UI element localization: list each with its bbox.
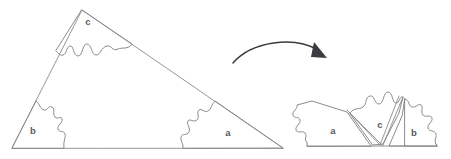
piece-a-shape[interactable] bbox=[181, 101, 283, 148]
right-piece-label-b: b bbox=[411, 127, 417, 138]
right-piece-label-c: c bbox=[377, 119, 382, 130]
source-triangle-group: c b a bbox=[12, 10, 283, 148]
transform-arrow-group bbox=[233, 42, 327, 63]
triangle-dissection-figure: c b a a bbox=[0, 0, 451, 159]
left-piece-label-b: b bbox=[30, 125, 36, 136]
diagram-canvas: c b a a bbox=[0, 0, 451, 159]
transform-arrow-head bbox=[311, 42, 327, 58]
rearranged-assembly-group: a c b bbox=[293, 92, 437, 146]
piece-c-shape[interactable] bbox=[56, 10, 132, 56]
right-piece-b-fringe[interactable] bbox=[405, 99, 437, 146]
left-piece-label-a: a bbox=[225, 127, 231, 138]
piece-b-shape[interactable] bbox=[12, 101, 65, 148]
right-piece-label-a: a bbox=[330, 125, 336, 136]
left-piece-label-c: c bbox=[85, 16, 90, 27]
transform-arrow-curve bbox=[233, 42, 318, 63]
